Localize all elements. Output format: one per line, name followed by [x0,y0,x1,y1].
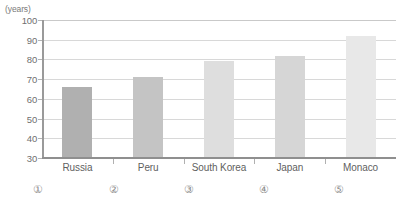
y-axis-tick-label: 30 [27,153,37,164]
y-axis-unit-label: (years) [5,4,31,14]
chart-title [0,0,400,1]
gridline [42,20,396,21]
gridline [42,59,396,60]
category-label: Monaco [343,162,378,173]
category-label: Peru [138,162,159,173]
y-axis-tick-label: 100 [22,15,37,26]
bar [204,61,234,158]
category-label: Japan [276,162,303,173]
y-axis-tick-label: 50 [27,113,37,124]
y-axis-tick-label: 40 [27,133,37,144]
bar [62,87,92,158]
category-label-row: RussiaPeruSouth KoreaJapanMonaco [42,162,396,178]
answer-choice-5[interactable]: ⑤ [334,183,344,196]
x-axis-separator-tick [113,159,114,164]
y-axis-tick-label: 80 [27,54,37,65]
answer-choice-3[interactable]: ③ [184,183,194,196]
x-axis-line [42,157,396,159]
x-axis-separator-tick [254,159,255,164]
answer-choice-2[interactable]: ② [109,183,119,196]
x-axis-separator-tick [325,159,326,164]
category-label: South Korea [192,162,247,173]
y-axis-line [42,20,44,159]
y-axis-tick-label: 60 [27,93,37,104]
plot-area: 10090807060504030 [42,20,396,158]
bar [275,56,305,159]
category-label: Russia [62,162,92,173]
y-axis-tick-label: 90 [27,34,37,45]
bar [346,36,376,158]
answer-choice-4[interactable]: ④ [259,183,269,196]
answer-choice-row: ①②③④⑤ [0,183,400,203]
gridline [42,40,396,41]
x-axis-separator-tick [184,159,185,164]
bar-chart-figure: (years) 10090807060504030 RussiaPeruSout… [0,0,400,205]
answer-choice-1[interactable]: ① [33,183,43,196]
y-axis-tick-label: 70 [27,74,37,85]
bar [133,77,163,158]
